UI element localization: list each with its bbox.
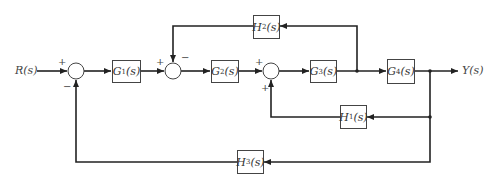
branch-point-y-lower [428,115,432,119]
block-g4-letter: G [387,65,396,78]
output-label: Y(s) [462,64,484,77]
block-h2: H2(s) [253,15,280,39]
s2-plus-sign: + [156,57,164,67]
block-h3-arg: (s) [250,156,264,169]
input-label: R(s) [15,64,38,77]
block-h1-arg: (s) [353,111,367,124]
block-g3-letter: G [310,65,319,78]
s3-plus-sign-left: + [255,57,263,67]
s1-plus-sign: + [58,57,66,67]
branch-point-y [428,69,432,73]
summing-junction-3 [263,63,279,79]
block-h3: H3(s) [237,150,264,174]
block-g1-arg: (s) [126,65,140,78]
block-h2-letter: H [252,21,262,34]
s2-minus-sign: − [181,53,189,63]
block-g1-letter: G [113,65,122,78]
block-h1-letter: H [339,111,349,124]
block-g2: G2(s) [211,60,239,83]
block-g1: G1(s) [112,60,141,83]
signal-h1-to-s3 [271,80,340,117]
block-h2-arg: (s) [266,21,280,34]
block-h3-letter: H [236,156,246,169]
signal-h3-to-s1 [76,80,237,162]
block-h1: H1(s) [340,105,367,129]
block-g4: G4(s) [387,59,415,84]
block-g3-arg: (s) [323,65,337,78]
block-g4-arg: (s) [401,65,415,78]
s1-minus-sign: − [63,82,71,92]
branch-point-g3 [355,69,359,73]
summing-junction-2 [165,63,181,79]
block-g2-letter: G [211,65,220,78]
summing-junction-1 [68,63,84,79]
s3-plus-sign-bottom: + [261,83,269,93]
block-g2-arg: (s) [225,65,239,78]
block-g3: G3(s) [310,60,337,83]
